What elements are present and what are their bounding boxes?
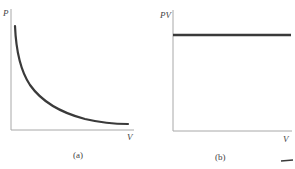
panel-b-caption: (b): [215, 152, 226, 162]
panel-a-chart: P V (a): [2, 8, 134, 160]
panel-a-curve: [15, 26, 128, 124]
panel-a-x-label: V: [127, 132, 134, 142]
panel-b-y-label: PV: [159, 10, 172, 20]
stray-mark: [281, 160, 293, 161]
panel-b-x-label: V: [283, 134, 290, 144]
panel-b-chart: PV V (b): [159, 10, 293, 162]
figure: P V (a) PV V (b): [0, 0, 295, 169]
panel-a-y-label: P: [2, 8, 9, 18]
panel-a-caption: (a): [73, 150, 83, 160]
